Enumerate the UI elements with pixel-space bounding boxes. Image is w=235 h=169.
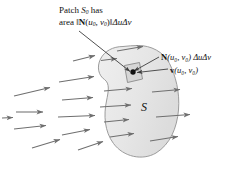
normal-vector-label: N(u₀, v₀) ΔuΔv bbox=[161, 52, 211, 62]
patch-caption-line-2: area ‖N(u0, v0)‖ΔuΔv bbox=[59, 17, 131, 28]
patch-caption-pre: Patch bbox=[59, 5, 81, 15]
patch-area-pre: area ‖ bbox=[59, 17, 79, 27]
velocity-vector-label: v(u₀, v₀) bbox=[170, 65, 198, 75]
patch-caption-post: has bbox=[89, 5, 103, 15]
flux-surface-figure: Patch S0 has area ‖N(u0, v0)‖ΔuΔv N(u₀, … bbox=[0, 0, 235, 169]
normal-label-delta: ΔuΔv bbox=[193, 52, 211, 62]
surface-label: S bbox=[141, 100, 147, 115]
normal-label-args: (u₀, v₀) bbox=[167, 52, 191, 62]
patch-area-caption: Patch S0 has area ‖N(u0, v0)‖ΔuΔv bbox=[59, 5, 131, 28]
velocity-label-args: (u₀, v₀) bbox=[174, 65, 198, 75]
evaluation-point-dot bbox=[130, 69, 135, 74]
patch-caption-line-1: Patch S0 has bbox=[59, 5, 131, 16]
patch-area-delta: ΔuΔv bbox=[112, 17, 131, 27]
vector-field-left bbox=[2, 56, 103, 151]
